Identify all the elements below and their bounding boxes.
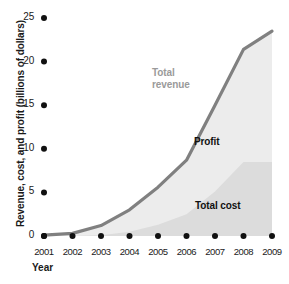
x-tick-dot: [98, 233, 104, 239]
plot-area: [0, 0, 289, 284]
series-label-total-revenue-line2: revenue: [152, 79, 190, 90]
x-tick-label: 2006: [172, 246, 202, 257]
x-tick-label: 2008: [229, 246, 259, 257]
x-tick-dot: [269, 233, 275, 239]
x-tick-dot: [70, 233, 76, 239]
x-tick-label: 2003: [86, 246, 116, 257]
y-tick-dot: [41, 146, 47, 152]
x-tick-label: 2001: [29, 246, 59, 257]
y-tick-label: 10: [8, 142, 34, 153]
y-tick-dot: [41, 15, 47, 21]
x-tick-label: 2007: [200, 246, 230, 257]
series-label-total-revenue-line1: Total: [152, 67, 175, 78]
y-tick-dot: [41, 59, 47, 65]
x-tick-dot: [127, 233, 133, 239]
x-tick-label: 2005: [143, 246, 173, 257]
x-tick-dot: [41, 233, 47, 239]
y-tick-label: 20: [8, 55, 34, 66]
x-tick-label: 2004: [115, 246, 145, 257]
y-tick-label: 5: [8, 185, 34, 196]
series-label-total-revenue: Total revenue: [152, 67, 212, 91]
y-axis-tick-dots: [41, 15, 47, 239]
x-tick-dot: [241, 233, 247, 239]
x-tick-label: 2009: [257, 246, 287, 257]
y-tick-dot: [41, 189, 47, 195]
series-label-total-cost: Total cost: [195, 200, 241, 212]
x-tick-dot: [155, 233, 161, 239]
x-tick-dot: [212, 233, 218, 239]
y-tick-label: 0: [8, 229, 34, 240]
y-tick-label: 15: [8, 98, 34, 109]
y-tick-dot: [41, 102, 47, 108]
x-tick-dot: [184, 233, 190, 239]
series-label-profit: Profit: [194, 136, 220, 148]
chart-container: Revenue, cost, and profit (billions of d…: [0, 0, 289, 284]
x-axis-title: Year: [32, 262, 53, 273]
y-tick-label: 25: [8, 11, 34, 22]
x-tick-label: 2002: [58, 246, 88, 257]
